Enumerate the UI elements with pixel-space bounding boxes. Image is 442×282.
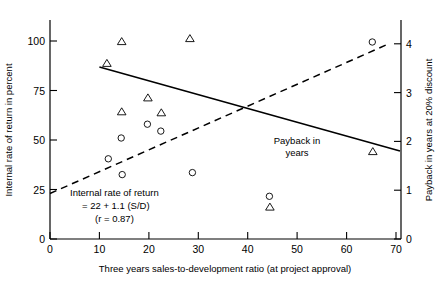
data-point-circle (189, 169, 195, 175)
trendline-label-payback: Payback in years (274, 135, 320, 158)
x-tick-label-20: 20 (143, 243, 155, 255)
scatter-chart: 0 25 50 75 100 0 1 2 3 4 (0, 0, 442, 282)
annotation-line-3: (r = 0.87) (95, 213, 134, 224)
data-point-circle (105, 156, 111, 162)
x-tick-label-50: 50 (291, 243, 303, 255)
annotation-line-2: = 22 + 1.1 (S/D) (82, 200, 150, 211)
data-point-circle (144, 121, 150, 127)
y-axis-right-ticks: 0 1 2 3 4 (394, 38, 412, 245)
data-point-triangle (369, 148, 378, 155)
y2-tick-label-4: 4 (406, 38, 412, 50)
data-point-circle (266, 193, 272, 199)
y-axis-title: Internal rate of return in percent (3, 63, 14, 196)
chart-container: 0 25 50 75 100 0 1 2 3 4 (0, 0, 442, 282)
data-point-circle (158, 128, 164, 134)
data-point-triangle (186, 35, 195, 42)
y-tick-label-50: 50 (33, 134, 45, 146)
data-point-circle (369, 39, 375, 45)
series-payback-in-years (105, 39, 375, 200)
x-tick-label-40: 40 (242, 243, 254, 255)
y-axis-left-ticks: 0 25 50 75 100 (27, 35, 57, 245)
y2-tick-label-0: 0 (406, 233, 412, 245)
x-axis-title: Three years sales-to-development ratio (… (99, 263, 351, 274)
data-point-circle (119, 171, 125, 177)
data-point-circle (118, 135, 124, 141)
x-tick-label-0: 0 (47, 243, 53, 255)
series-internal-rate-of-return (103, 35, 378, 211)
y2-tick-label-1: 1 (406, 184, 412, 196)
x-tick-label-60: 60 (341, 243, 353, 255)
trendlines-group (50, 45, 400, 194)
x-tick-label-10: 10 (94, 243, 106, 255)
x-tick-label-70: 70 (390, 243, 402, 255)
trendline-payback-solid (99, 67, 400, 151)
x-tick-label-30: 30 (192, 243, 204, 255)
y-tick-label-0: 0 (39, 233, 45, 245)
data-point-triangle (266, 203, 275, 210)
data-point-triangle (103, 59, 112, 66)
data-point-triangle (157, 109, 166, 116)
y2-axis-title: Payback in years at 20% discount (423, 58, 434, 201)
annotation-line-1: Internal rate of return (70, 187, 159, 198)
y-tick-label-25: 25 (33, 184, 45, 196)
annotation-regression-equation: Internal rate of return = 22 + 1.1 (S/D)… (70, 187, 159, 224)
y2-tick-label-3: 3 (406, 87, 412, 99)
data-point-triangle (117, 38, 126, 45)
x-axis-ticks: 0 10 20 30 40 50 60 70 (47, 232, 402, 255)
y2-tick-label-2: 2 (406, 135, 412, 147)
y-tick-label-75: 75 (33, 85, 45, 97)
data-point-triangle (117, 108, 126, 115)
trendline-label-line-2: years (285, 147, 308, 158)
data-point-triangle (144, 94, 153, 101)
trendline-label-line-1: Payback in (274, 135, 320, 146)
y-tick-label-100: 100 (27, 35, 45, 47)
